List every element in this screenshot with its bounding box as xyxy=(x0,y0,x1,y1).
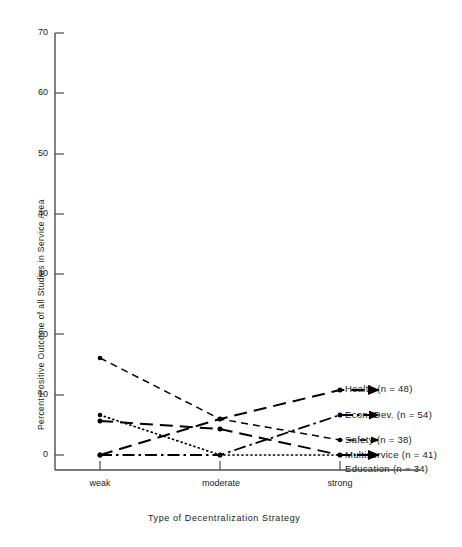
data-point-multiservice-weak xyxy=(98,419,103,424)
data-point-econ-dev-strong xyxy=(338,413,343,418)
series-line-education xyxy=(98,413,378,458)
series-line-health xyxy=(98,388,379,458)
data-point-health-strong xyxy=(338,388,343,393)
data-point-health-moderate xyxy=(218,417,223,422)
series-line-econ-dev xyxy=(98,413,379,458)
series-line-multiservice xyxy=(98,419,379,458)
data-point-econ-dev-moderate xyxy=(218,453,223,458)
x-axis-ticks xyxy=(100,461,340,470)
series-line-safety xyxy=(98,356,378,443)
data-point-multiservice-moderate xyxy=(218,427,223,432)
y-axis-ticks xyxy=(55,33,64,455)
data-point-education-weak xyxy=(98,413,103,418)
data-point-safety-weak xyxy=(98,356,103,361)
data-point-safety-strong xyxy=(338,438,343,443)
chart-plot-area xyxy=(0,0,462,547)
chart-figure: Percent Positive Outcome of all Studies … xyxy=(0,0,462,547)
data-point-multiservice-strong xyxy=(338,453,343,458)
data-point-econ-dev-weak xyxy=(98,453,103,458)
